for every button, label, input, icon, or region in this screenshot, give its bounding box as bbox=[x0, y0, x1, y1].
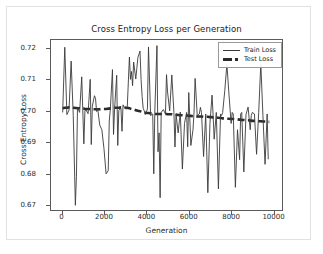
legend-item-train-loss: Train Loss bbox=[223, 46, 277, 55]
x-tick-mark bbox=[104, 211, 105, 215]
legend-dashed-line-icon bbox=[223, 55, 240, 64]
chart-title: Cross Entropy Loss per Generation bbox=[50, 24, 283, 34]
figure-canvas: Cross Entropy Loss per Generation Cross … bbox=[0, 0, 323, 254]
legend: Train Loss Test Loss bbox=[218, 42, 282, 68]
y-tick-label: 0.68 bbox=[10, 170, 36, 178]
x-tick-mark bbox=[274, 211, 275, 215]
x-tick-mark bbox=[62, 211, 63, 215]
y-tick-label: 0.70 bbox=[10, 107, 36, 115]
x-tick-mark bbox=[189, 211, 190, 215]
y-tick-label: 0.72 bbox=[10, 44, 36, 52]
legend-label-test-loss: Test Loss bbox=[244, 55, 273, 64]
x-tick-mark bbox=[146, 211, 147, 215]
x-axis-label: Generation bbox=[50, 226, 283, 235]
legend-item-test-loss: Test Loss bbox=[223, 55, 277, 64]
y-tick-label: 0.71 bbox=[10, 75, 36, 83]
x-tick-mark bbox=[231, 211, 232, 215]
series-line-train-loss bbox=[63, 46, 269, 206]
y-tick-label: 0.67 bbox=[10, 201, 36, 209]
plot-area: Train Loss Test Loss bbox=[50, 39, 283, 211]
legend-label-train-loss: Train Loss bbox=[244, 46, 276, 55]
legend-solid-line-icon bbox=[223, 46, 240, 55]
y-tick-label: 0.69 bbox=[10, 138, 36, 146]
